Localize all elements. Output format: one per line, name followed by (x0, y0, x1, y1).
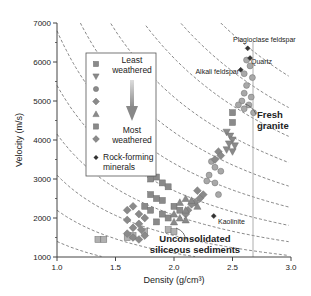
weathering-arrow-shaft (130, 80, 134, 108)
data-point-square (153, 196, 159, 202)
data-point-circle (241, 106, 247, 112)
data-point-circle (204, 178, 210, 184)
data-point-square (95, 236, 101, 242)
y-tick-label: 1000 (33, 253, 51, 262)
data-point-diamond (129, 202, 137, 210)
y-tick-label: 7000 (33, 19, 51, 28)
data-point-circle (244, 82, 250, 88)
y-axis-label: Velocity (m/s) (14, 113, 24, 167)
data-point-triangle-down (223, 147, 230, 154)
legend: Least weathered Most weathered Rock-form… (86, 53, 156, 176)
y-axis: 1000200030004000500060007000 Velocity (m… (14, 19, 57, 262)
y-tick-label: 2000 (33, 214, 51, 223)
data-point-triangle-up (182, 216, 189, 223)
annotation-label: Kaolinite (218, 218, 245, 225)
y-tick-label: 5000 (33, 97, 51, 106)
data-point-diamond (194, 187, 202, 195)
legend-most-label: Most (123, 125, 142, 135)
chart-svg: 1000200030004000500060007000 Velocity (m… (0, 0, 311, 296)
data-point-triangle-up (170, 211, 177, 218)
sediments-label: siliceous sediments (150, 244, 240, 255)
data-point-triangle-up (170, 218, 177, 225)
data-point-square (230, 110, 236, 116)
data-point-square (165, 184, 171, 190)
x-tick-label: 2.5 (227, 263, 239, 272)
data-point-circle (218, 168, 224, 174)
data-point-square (230, 119, 236, 125)
legend-weathered-label-top: weathered (111, 65, 152, 75)
data-point-triangle-down (229, 149, 236, 156)
legend-minerals-label: minerals (103, 162, 135, 172)
data-point-diamond (141, 214, 149, 222)
data-point-square (159, 197, 165, 203)
data-point-circle (212, 164, 218, 170)
x-axis: 1.01.52.02.53.0 Density (g/cm³) (51, 257, 297, 285)
data-point-triangle-up (182, 195, 189, 202)
data-point-triangle-up (176, 214, 183, 221)
data-point-circle (241, 71, 247, 77)
x-tick-label: 3.0 (285, 263, 297, 272)
legend-weathered-label-bottom: weathered (111, 135, 152, 145)
x-tick-label: 1.0 (51, 263, 63, 272)
y-tick-label: 6000 (33, 58, 51, 67)
annotation-label: Quartz (251, 58, 273, 66)
data-point-square (148, 192, 154, 198)
data-point-diamond (123, 216, 131, 224)
data-point-circle (241, 90, 247, 96)
data-point-square (148, 207, 154, 213)
sediments-label: Unconsolidated (159, 233, 230, 244)
iso-impedance-curve (57, 241, 102, 256)
data-point-square (148, 176, 154, 182)
data-point-small-diamond-dark (211, 214, 216, 219)
data-point-circle (215, 192, 221, 198)
fresh-granite-label: granite (257, 120, 289, 131)
data-point-square (93, 124, 98, 129)
data-point-diamond (135, 210, 143, 218)
y-tick-label: 4000 (33, 136, 51, 145)
data-point-circle (249, 75, 255, 81)
data-point-square (165, 215, 171, 221)
data-point-diamond (123, 206, 131, 214)
legend-least-label: Least (122, 55, 143, 65)
x-tick-label: 1.5 (110, 263, 122, 272)
fresh-granite-label: Fresh (257, 109, 283, 120)
x-tick-label: 2.0 (168, 263, 180, 272)
data-point-square (153, 219, 159, 225)
data-point-small-diamond-dark (245, 46, 250, 51)
data-point-diamond (129, 224, 137, 232)
data-point-square (165, 227, 171, 233)
velocity-density-scatter-chart: 1000200030004000500060007000 Velocity (m… (0, 0, 311, 296)
data-point-circle (206, 172, 212, 178)
data-point-square (142, 203, 148, 209)
data-point-circle (248, 94, 254, 100)
data-point-square (159, 180, 165, 186)
data-point-circle (212, 180, 218, 186)
annotation-label: Plagioclase feldspar (233, 36, 296, 44)
data-point-circle (93, 86, 98, 91)
legend-rock-forming-label: Rock-forming (103, 152, 154, 162)
data-point-triangle-up (176, 199, 183, 206)
y-tick-label: 3000 (33, 175, 51, 184)
data-point-circle (235, 102, 241, 108)
data-point-square (93, 61, 98, 66)
data-point-square (101, 236, 107, 242)
data-point-square (171, 203, 177, 209)
annotation-label: Alkali feldspar (195, 68, 239, 76)
data-point-square (177, 207, 183, 213)
x-axis-label: Density (g/cm³) (143, 275, 204, 285)
data-point-square (159, 211, 165, 217)
